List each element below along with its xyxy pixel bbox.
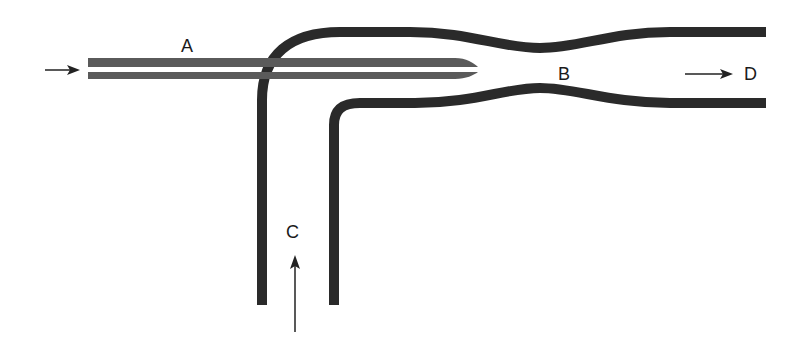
outlet-arrow-d: [685, 69, 733, 79]
flow-diagram: A B C D: [0, 0, 803, 343]
label-c: C: [286, 222, 299, 242]
outer-tube-lower-wall: [334, 88, 766, 305]
label-a: A: [181, 36, 193, 56]
inlet-arrow-c: [290, 255, 300, 332]
inlet-arrow-a: [45, 65, 80, 75]
label-b: B: [558, 64, 570, 84]
inner-tube-a-bottom: [88, 72, 478, 79]
label-d: D: [744, 64, 757, 84]
inner-tube-a-top: [88, 58, 478, 67]
